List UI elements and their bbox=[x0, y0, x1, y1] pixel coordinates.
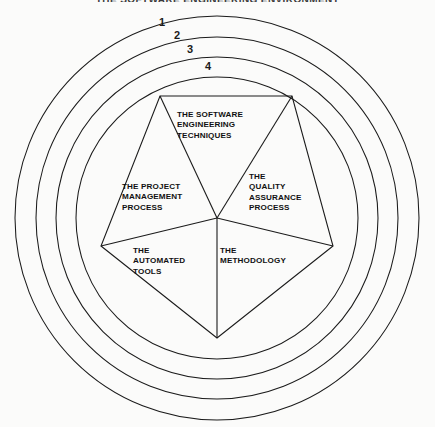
sector-label-software-engineering: THE SOFTWARE ENGINEERING TECHNIQUES bbox=[177, 110, 243, 141]
sector-label-project-management: THE PROJECT MANAGEMENT PROCESS bbox=[122, 182, 182, 213]
spoke-to-right bbox=[217, 218, 333, 246]
ring-label-3: 3 bbox=[187, 43, 193, 55]
ring-label-2: 2 bbox=[174, 29, 180, 41]
ring-label-1: 1 bbox=[159, 16, 165, 28]
sector-label-automated-tools: THE AUTOMATED TOOLS bbox=[133, 246, 185, 277]
ring-label-4: 4 bbox=[205, 60, 212, 72]
concentric-pentagon-diagram: 1 2 3 4 bbox=[0, 0, 435, 427]
figure-root: THE SOFTWARE ENGINEERING ENVIRONMENT 1 2… bbox=[0, 0, 435, 427]
sector-label-methodology: THE METHODOLOGY bbox=[220, 246, 286, 267]
spoke-to-left bbox=[101, 218, 217, 246]
sector-label-quality-assurance: THE QUALITY ASSURANCE PROCESS bbox=[249, 172, 302, 214]
